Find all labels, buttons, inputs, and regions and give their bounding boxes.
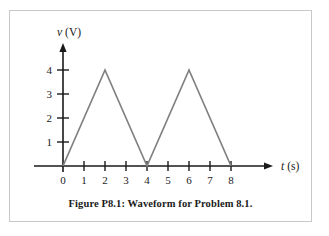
- x-tick-label-6: 6: [186, 174, 192, 186]
- x-tick-label-8: 8: [228, 174, 234, 186]
- y-tick-label-2: 2: [47, 112, 53, 124]
- y-tick-label-1: 1: [47, 136, 53, 148]
- x-tick-label-4: 4: [144, 174, 150, 186]
- x-axis-arrow-icon: [264, 162, 273, 169]
- x-axis-unit: (s): [287, 160, 299, 173]
- x-tick-label-1: 1: [81, 174, 87, 186]
- waveform-line: [63, 70, 231, 166]
- figure-caption: Figure P8.1: Waveform for Problem 8.1.: [9, 198, 312, 209]
- x-tick-label-5: 5: [165, 174, 171, 186]
- y-axis-label: v(V): [57, 26, 81, 39]
- y-tick-label-3: 3: [47, 88, 53, 100]
- y-axis-symbol: v: [57, 26, 63, 38]
- x-tick-label-3: 3: [123, 174, 129, 186]
- x-axis-label: t(s): [281, 160, 300, 173]
- x-tick-label-2: 2: [102, 174, 108, 186]
- y-axis-arrow-icon: [59, 43, 66, 52]
- y-tick-label-4: 4: [47, 64, 53, 76]
- y-axis-unit: (V): [65, 26, 81, 39]
- x-tick-label-0: 0: [60, 174, 66, 186]
- x-tick-label-7: 7: [207, 174, 213, 186]
- x-axis-symbol: t: [281, 160, 285, 172]
- figure-container: 4 3 2 1 0 1 2 3 4 5 6 7 8 v(V) t(s) Figu…: [0, 0, 329, 236]
